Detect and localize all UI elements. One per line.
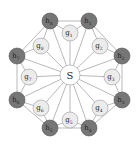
node-h8: h8: [42, 13, 58, 29]
node-h3: h3: [114, 92, 130, 108]
node-g2: g2: [92, 38, 108, 54]
node-g5: g5: [62, 112, 78, 128]
node-g3: g3: [104, 69, 120, 85]
node-h5: h5: [42, 120, 58, 136]
node-label: S: [67, 70, 74, 81]
node-g1: g1: [62, 25, 78, 41]
node-h2: h2: [114, 48, 130, 64]
node-g4: g4: [92, 100, 108, 116]
node-g6: g6: [33, 100, 49, 116]
node-h7: h7: [9, 48, 25, 64]
nodes-layer: h1h2h3h4h5h6h7h8g1g2g3g4g5g6g7g8S: [9, 13, 130, 136]
node-g7: g7: [21, 69, 37, 85]
network-diagram: h1h2h3h4h5h6h7h8g1g2g3g4g5g6g7g8S: [0, 0, 140, 147]
node-h4: h4: [81, 120, 97, 136]
node-g8: g8: [33, 38, 49, 54]
node-h6: h6: [9, 92, 25, 108]
node-h1: h1: [81, 13, 97, 29]
node-S: S: [60, 65, 80, 85]
